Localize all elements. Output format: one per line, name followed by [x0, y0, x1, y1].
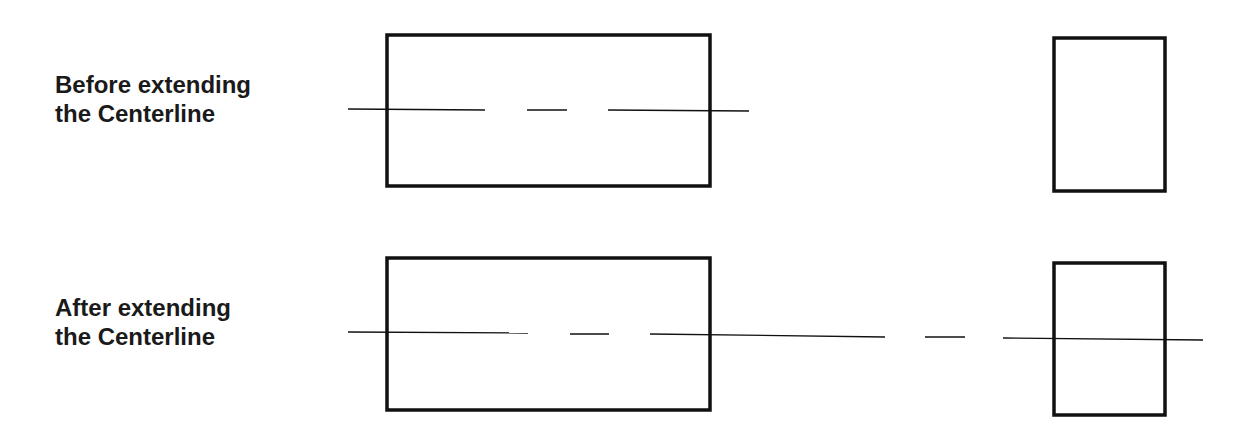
centerline-diagram	[0, 0, 1248, 439]
after-centerline	[348, 332, 1203, 340]
before-centerline	[348, 109, 749, 111]
after-row	[348, 258, 1203, 415]
before-row	[348, 35, 1165, 191]
before-right-rect	[1054, 38, 1165, 191]
